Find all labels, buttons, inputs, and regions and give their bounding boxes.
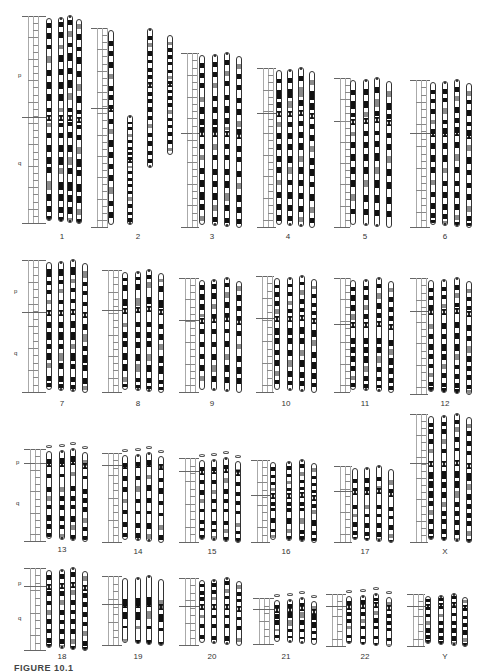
- band: [212, 354, 216, 360]
- band: [288, 328, 292, 335]
- band: [310, 169, 314, 175]
- band: [213, 62, 217, 67]
- scale-top-line: [334, 278, 350, 279]
- scale-tick: [28, 187, 38, 188]
- scale-tick: [102, 85, 107, 86]
- scale-tick: [97, 177, 107, 178]
- centromere: [58, 115, 64, 121]
- band: [288, 101, 292, 107]
- band: [225, 155, 229, 160]
- band: [431, 167, 435, 173]
- band: [159, 478, 163, 482]
- band: [300, 381, 304, 386]
- band: [71, 344, 75, 349]
- chromosome-19-ideogram-3: [146, 575, 152, 645]
- band: [275, 380, 279, 384]
- band: [47, 496, 51, 501]
- band: [159, 628, 163, 631]
- scale-column: [185, 278, 186, 392]
- chromosome-label-12: 12: [425, 399, 465, 408]
- scale-tick: [268, 126, 273, 127]
- band: [60, 600, 64, 605]
- band: [353, 514, 357, 517]
- scale-tick: [340, 142, 350, 143]
- scale-tick: [421, 314, 426, 315]
- scale-bottom-line: [410, 394, 428, 395]
- telomere-cap: [213, 641, 215, 644]
- scale-column: [118, 453, 119, 542]
- karyotype-ideogram-figure: pq123456pq789101112pq1314151617Xpq181920…: [0, 0, 488, 671]
- centromere: [299, 315, 305, 321]
- centromere: [158, 464, 164, 470]
- centromere-line: [257, 113, 276, 114]
- telomere-cap: [300, 67, 302, 70]
- band: [147, 475, 151, 480]
- telomere-cap: [226, 277, 228, 280]
- band: [109, 62, 113, 68]
- band: [225, 581, 229, 584]
- band: [83, 507, 87, 512]
- telomere-cap: [226, 389, 228, 392]
- scale-tick: [102, 142, 107, 143]
- telomere-cap: [366, 538, 368, 541]
- band: [237, 592, 241, 596]
- scale-tick: [113, 320, 118, 321]
- band: [77, 135, 81, 140]
- band: [312, 531, 316, 535]
- band: [237, 344, 241, 350]
- band: [287, 488, 291, 491]
- scale-tick: [108, 292, 118, 293]
- band: [467, 473, 471, 481]
- band: [287, 466, 291, 470]
- band: [77, 24, 81, 29]
- band: [77, 170, 81, 176]
- band: [47, 56, 51, 63]
- band: [47, 344, 51, 349]
- band: [71, 288, 75, 292]
- band: [377, 356, 381, 363]
- telomere-cap: [148, 539, 150, 542]
- scale-bottom-line: [407, 646, 425, 647]
- band: [299, 156, 303, 162]
- band: [83, 271, 87, 279]
- scale-column: [28, 16, 29, 223]
- band: [467, 194, 471, 200]
- band: [213, 217, 217, 222]
- chromosome-13-ideogram-3: [70, 448, 76, 541]
- band: [455, 491, 459, 497]
- band: [148, 151, 152, 155]
- band: [377, 477, 381, 482]
- scale-tick: [190, 630, 195, 631]
- chromosome-9-ideogram-2: [211, 279, 217, 391]
- band: [361, 636, 365, 639]
- band: [128, 127, 132, 130]
- scale-tick: [421, 471, 426, 472]
- band: [200, 192, 204, 200]
- band: [364, 131, 368, 135]
- band: [300, 464, 304, 468]
- band: [47, 145, 51, 152]
- centromere: [236, 133, 242, 139]
- band: [389, 480, 393, 484]
- band: [389, 534, 393, 538]
- chromosome-16-ideogram-1: [270, 462, 276, 540]
- scale-tick: [268, 82, 273, 83]
- chromosome-6-ideogram-4: [466, 83, 472, 228]
- band: [364, 286, 368, 290]
- scale-bottom-line: [251, 542, 270, 543]
- band: [200, 294, 204, 300]
- band: [431, 120, 435, 124]
- band: [47, 644, 51, 647]
- telomere-cap: [225, 539, 227, 542]
- scale-tick: [421, 380, 426, 381]
- band: [83, 355, 87, 363]
- band: [361, 612, 365, 616]
- scale-tick: [33, 116, 38, 117]
- band: [389, 297, 393, 303]
- centromere: [309, 113, 315, 119]
- scale-column: [35, 568, 36, 650]
- scale-tick: [192, 213, 197, 214]
- telomere-cap: [129, 222, 131, 225]
- band: [59, 168, 63, 174]
- centromere: [82, 312, 88, 318]
